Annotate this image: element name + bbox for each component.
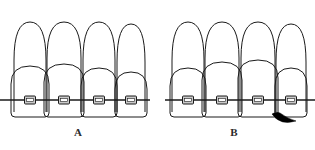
bracket-a-1 [25,96,36,104]
bracket-b-4 [286,96,297,104]
crown-a-3 [81,68,117,117]
bracket-a-4 [126,96,137,104]
tooth-diagram-figure: A B [0,0,315,150]
bracket-b-1 [183,96,194,104]
bracket-a-2 [59,96,70,104]
panel-a-crowns [11,64,147,117]
crown-a-1 [11,66,49,117]
panel-b [165,22,315,122]
panel-label-b: B [224,126,244,138]
panel-b-crowns [170,60,307,117]
crown-a-4 [115,72,147,117]
crown-a-2 [44,64,84,117]
crown-b-2 [202,62,242,117]
tooth-diagram-canvas [0,0,315,150]
bracket-b-3 [253,96,264,104]
bracket-b-2 [217,96,228,104]
bracket-a-3 [94,96,105,104]
panel-label-a: A [68,126,88,138]
crown-b-3 [238,60,278,117]
panel-a [0,22,150,117]
crown-b-1 [170,68,206,117]
crown-b-4 [275,68,307,117]
